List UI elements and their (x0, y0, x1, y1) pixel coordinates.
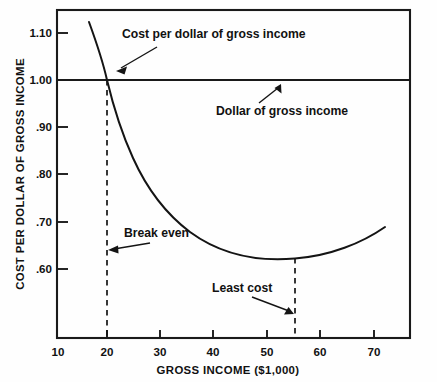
x-tick-label-60: 60 (314, 345, 327, 358)
x-tick-label-10: 10 (52, 345, 65, 358)
arrow-head-icon (275, 84, 282, 94)
y-axis-ticks (57, 33, 68, 269)
annotation-reference-label-text: Dollar of gross income (216, 104, 348, 118)
arrow-head-icon (284, 307, 294, 315)
annotation-break-even-label-text: Break even (124, 226, 189, 240)
x-tick-label-70: 70 (368, 345, 381, 358)
y-tick-label-1: 1.10 (29, 26, 52, 39)
annotation-reference-label: Dollar of gross income (216, 84, 348, 118)
annotation-curve-label-leader (121, 47, 157, 68)
y-tick-label-6: .60 (36, 262, 52, 275)
chart-canvas: 1.10 1.00 .90 .80 .70 .60 10 20 30 40 50… (0, 0, 437, 382)
data-curve-cost-per-dollar (89, 22, 385, 259)
annotation-curve-label: Cost per dollar of gross income (116, 27, 306, 75)
annotation-least-cost-label-text: Least cost (212, 281, 272, 295)
y-axis-tick-labels: 1.10 1.00 .90 .80 .70 .60 (29, 26, 52, 275)
y-axis-title: COST PER DOLLAR OF GROSS INCOME (14, 58, 26, 290)
y-tick-label-4: .80 (36, 167, 52, 180)
x-tick-label-50: 50 (261, 345, 274, 358)
figure-container: 1.10 1.00 .90 .80 .70 .60 10 20 30 40 50… (0, 0, 437, 382)
y-tick-label-3: .90 (36, 120, 52, 133)
x-axis-title: GROSS INCOME ($1,000) (157, 364, 300, 376)
x-axis-ticks (107, 330, 374, 338)
x-tick-label-20: 20 (101, 345, 114, 358)
annotation-least-cost-label-leader (252, 297, 289, 311)
annotation-break-even-label: Break even (108, 226, 189, 254)
y-tick-label-2: 1.00 (29, 73, 52, 86)
annotation-curve-label-text: Cost per dollar of gross income (122, 27, 306, 41)
x-tick-label-40: 40 (207, 345, 220, 358)
annotation-break-even-label-leader (114, 243, 150, 249)
annotation-reference-label-leader (259, 88, 278, 103)
x-tick-label-30: 30 (154, 345, 167, 358)
x-axis-tick-labels: 10 20 30 40 50 60 70 (52, 345, 381, 358)
annotation-least-cost-label: Least cost (212, 281, 294, 315)
arrow-head-icon (108, 246, 119, 254)
y-tick-label-5: .70 (36, 215, 52, 228)
